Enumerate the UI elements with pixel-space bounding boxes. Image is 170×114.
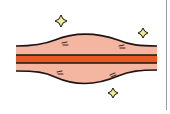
- sparkle-icon: [108, 88, 118, 98]
- central-band: [16, 55, 157, 63]
- sparkle-icon: [138, 28, 148, 38]
- illustration-canvas: [0, 0, 170, 114]
- sparkle-icon: [55, 15, 67, 27]
- frame-border-line: [166, 0, 167, 110]
- spindle-illustration: [0, 0, 170, 114]
